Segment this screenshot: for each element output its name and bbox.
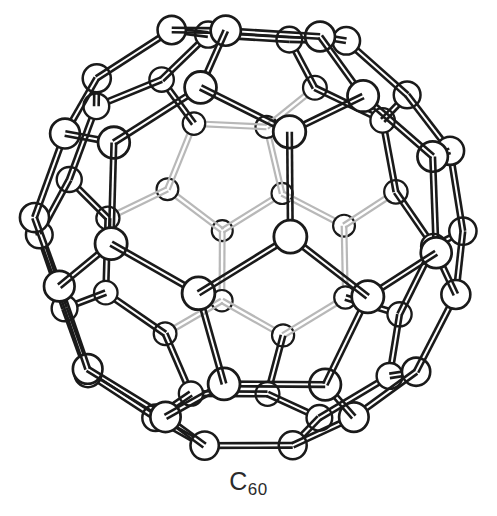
carbon-atom: [185, 72, 217, 104]
carbon-atom: [95, 228, 127, 260]
carbon-atom: [339, 402, 369, 432]
carbon-atom: [273, 116, 306, 149]
carbon-atom: [211, 16, 241, 46]
carbon-atom: [309, 369, 341, 401]
carbon-atom: [150, 402, 180, 432]
molecule-caption: C60: [0, 466, 497, 505]
carbon-atom: [274, 220, 307, 253]
carbon-atom: [441, 280, 470, 309]
caption-element-symbol: C: [229, 467, 248, 495]
c60-molecule-diagram: [0, 0, 497, 466]
carbon-atom: [182, 277, 215, 310]
carbon-atom: [347, 80, 378, 111]
caption-atom-count-subscript: 60: [248, 480, 268, 499]
carbon-atom: [370, 108, 394, 132]
carbon-atom: [96, 207, 119, 230]
carbon-atom: [279, 431, 307, 459]
carbon-atom: [158, 16, 186, 44]
c60-figure: C60: [0, 0, 497, 516]
